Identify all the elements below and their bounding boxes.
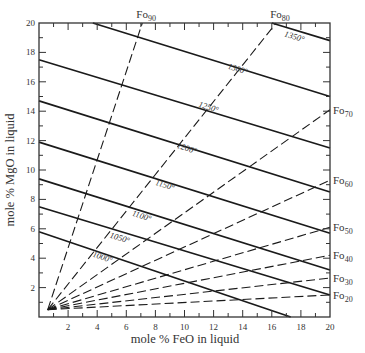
chart: 24681012141618202468101214161820 1000°10… [0, 0, 365, 353]
isotherm-label: 1350° [283, 29, 306, 45]
forsterite-label: Fo70 [333, 104, 353, 119]
isotherm-label: 1000° [91, 249, 114, 265]
y-tick-label: 12 [26, 136, 35, 146]
y-tick-label: 4 [31, 253, 36, 263]
forsterite-label: Fo90 [136, 8, 156, 23]
forsterite-label: Fo60 [333, 174, 353, 189]
isotherm-label: 1100° [131, 208, 153, 224]
y-tick-label: 16 [26, 77, 36, 87]
plot-frame [39, 23, 330, 317]
isotherm-lines [39, 23, 330, 317]
x-tick-label: 6 [124, 322, 129, 332]
y-tick-label: 2 [31, 283, 36, 293]
y-axis-label: mole % MgO in liquid [3, 113, 17, 227]
isotherm-label: 1150° [154, 177, 176, 193]
isotherm-label: 1200° [176, 140, 199, 156]
forsterite-label: Fo20 [333, 289, 353, 304]
forsterite-label: Fo40 [333, 249, 353, 264]
line-labels: 1000°1050°1100°1150°1200°1250°1300°1350°… [91, 8, 352, 304]
forsterite-line-Fo70 [48, 110, 330, 310]
y-tick-label: 20 [26, 18, 36, 28]
x-tick-label: 4 [95, 322, 100, 332]
isotherm-label: 1250° [197, 99, 220, 115]
forsterite-lines [48, 23, 330, 310]
x-tick-label: 8 [153, 322, 158, 332]
x-tick-label: 12 [209, 322, 218, 332]
y-tick-label: 8 [31, 194, 36, 204]
y-tick-label: 18 [26, 47, 36, 57]
isotherm-1250 [39, 60, 330, 148]
y-tick-label: 10 [26, 165, 36, 175]
y-tick-label: 14 [26, 106, 36, 116]
forsterite-line-Fo60 [48, 180, 330, 309]
isotherm-1100 [39, 179, 330, 270]
axes: 24681012141618202468101214161820 [26, 18, 335, 332]
x-tick-label: 10 [180, 322, 190, 332]
x-tick-label: 18 [296, 322, 306, 332]
x-tick-label: 16 [267, 322, 277, 332]
forsterite-label: Fo30 [333, 272, 353, 287]
forsterite-label: Fo50 [333, 221, 353, 236]
x-axis-label: mole % FeO in liquid [131, 332, 240, 346]
x-tick-label: 20 [326, 322, 336, 332]
isotherm-label: 1050° [109, 230, 132, 246]
isotherm-label: 1300° [227, 61, 250, 77]
y-tick-label: 6 [31, 224, 36, 234]
forsterite-label: Fo80 [270, 8, 290, 23]
x-tick-label: 2 [66, 322, 71, 332]
x-tick-label: 14 [238, 322, 248, 332]
